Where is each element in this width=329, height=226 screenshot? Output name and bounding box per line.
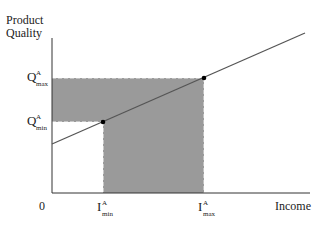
income-range-band <box>103 122 204 193</box>
q-max-label: Q A max <box>27 70 36 84</box>
x-axis-label: Income <box>275 200 311 213</box>
max-point <box>202 76 207 81</box>
min-point <box>101 120 106 125</box>
origin-label: 0 <box>39 200 45 213</box>
q-max-main: Q <box>27 69 36 84</box>
i-min-label: I A min <box>97 200 101 214</box>
y-axis-label: Product Quality <box>6 14 43 40</box>
q-max-sub: max <box>36 78 48 91</box>
i-min-sub: min <box>102 208 113 221</box>
i-max-sub: max <box>203 208 215 221</box>
i-min-main: I <box>97 199 101 214</box>
quality-range-band <box>52 78 204 122</box>
q-min-label: Q A min <box>27 114 36 128</box>
diagram-canvas <box>0 0 329 226</box>
i-max-main: I <box>198 199 202 214</box>
y-axis-label-line2: Quality <box>6 27 43 40</box>
i-max-label: I A max <box>198 200 202 214</box>
q-min-sub: min <box>36 122 47 135</box>
q-min-main: Q <box>27 113 36 128</box>
